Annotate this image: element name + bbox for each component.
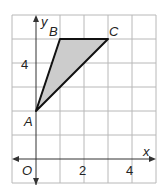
x-axis-arrow-left <box>12 156 19 162</box>
x-axis-arrow-right <box>149 156 156 162</box>
point-label-b: B <box>49 24 58 39</box>
x-tick-label-2: 2 <box>79 163 86 178</box>
triangle-abc <box>36 39 108 111</box>
y-axis-label: y <box>40 14 49 29</box>
point-label-c: C <box>109 24 119 39</box>
y-axis-arrow-up <box>33 15 39 22</box>
coordinate-plane: y x O 2 4 4 A B C <box>0 0 161 190</box>
y-axis-arrow-down <box>33 178 39 185</box>
point-label-a: A <box>23 114 33 129</box>
origin-label: O <box>22 163 32 178</box>
y-tick-label-4: 4 <box>21 57 28 72</box>
x-axis-label: x <box>142 144 150 159</box>
x-tick-label-4: 4 <box>126 163 133 178</box>
